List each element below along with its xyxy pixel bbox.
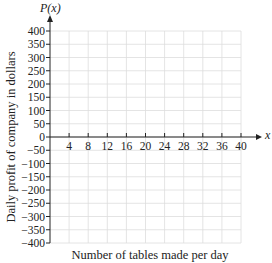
y-tick-label: 400 — [28, 25, 46, 37]
y-tick-label: −250 — [21, 197, 45, 209]
x-axis-arrow-icon — [256, 134, 262, 140]
y-tick-label: −200 — [21, 184, 45, 196]
chart: 481216202428323640 400350300250200150100… — [0, 0, 272, 263]
x-tick-label: 32 — [197, 140, 209, 152]
y-tick-label: 150 — [28, 91, 46, 103]
x-tick-label: 12 — [102, 140, 114, 152]
y-axis-title: Daily profit of company in dollars — [4, 51, 18, 222]
y-tick-label: 0 — [39, 131, 45, 143]
y-tick-label: −350 — [21, 224, 45, 236]
y-tick-label: 300 — [28, 52, 46, 64]
y-tick-label: −400 — [21, 237, 45, 249]
x-tick-label: 16 — [121, 140, 133, 152]
y-tick-label: −150 — [21, 171, 45, 183]
function-label: P(x) — [39, 1, 61, 15]
y-tick-label: −50 — [27, 144, 45, 156]
y-axis-arrow-icon — [47, 15, 53, 22]
y-axis-ticks: 400350300250200150100500−50−100−150−200−… — [21, 25, 50, 249]
x-tick-label: 20 — [140, 140, 152, 152]
x-tick-label: 24 — [159, 140, 171, 152]
axes — [47, 15, 262, 243]
x-axis-ticks: 481216202428323640 — [66, 133, 247, 152]
y-tick-label: 50 — [34, 118, 46, 130]
y-tick-label: 200 — [28, 78, 46, 90]
x-tick-label: 28 — [178, 140, 190, 152]
y-tick-label: 350 — [28, 38, 46, 50]
y-tick-label: −100 — [21, 158, 45, 170]
x-axis-title: Number of tables made per day — [71, 248, 229, 262]
x-tick-label: 4 — [66, 140, 72, 152]
x-axis-variable-label: x — [264, 128, 271, 142]
y-tick-label: −300 — [21, 211, 45, 223]
x-tick-label: 8 — [85, 140, 91, 152]
x-tick-label: 40 — [235, 140, 247, 152]
y-tick-label: 100 — [28, 105, 46, 117]
x-tick-label: 36 — [216, 140, 228, 152]
y-tick-label: 250 — [28, 65, 46, 77]
